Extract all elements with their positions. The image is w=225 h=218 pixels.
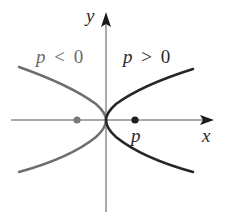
right-condition-var: p <box>121 46 133 67</box>
left-condition-val: 0 <box>74 46 84 67</box>
parabola-diagram: y x p < 0 p > 0 p <box>0 0 225 218</box>
x-axis-label: x <box>201 125 211 146</box>
left-condition-op: < <box>54 46 65 67</box>
focus-positive-dot <box>131 116 138 123</box>
focus-label: p <box>129 125 141 146</box>
right-condition-val: 0 <box>161 46 171 67</box>
right-condition-label: p > 0 <box>121 46 170 67</box>
left-condition-label: p < 0 <box>34 46 83 67</box>
right-condition-op: > <box>141 46 152 67</box>
focus-negative-dot <box>73 116 80 123</box>
y-axis-label: y <box>84 5 95 26</box>
left-condition-var: p <box>34 46 46 67</box>
